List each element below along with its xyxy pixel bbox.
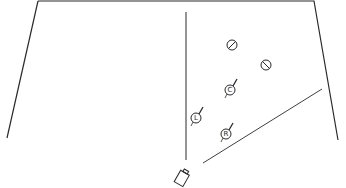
left-wall <box>7 1 38 138</box>
marker-r-letter: R <box>224 130 229 138</box>
marker-c-letter: C <box>228 86 233 94</box>
back-and-right-wall <box>38 1 338 140</box>
camera-icon <box>174 168 191 187</box>
marker-r: R <box>221 123 233 142</box>
room-outline <box>7 1 338 140</box>
marker-c: C <box>225 79 237 98</box>
fixture-1 <box>227 40 237 50</box>
diagonal-line <box>203 89 322 163</box>
floor-plan-diagram: C L R <box>0 0 346 188</box>
fixture-2 <box>261 60 271 70</box>
marker-l-letter: L <box>194 114 198 122</box>
marker-l: L <box>191 107 203 126</box>
